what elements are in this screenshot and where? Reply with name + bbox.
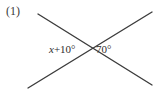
intersecting-lines-diagram xyxy=(0,0,163,102)
angle-label-right: 70° xyxy=(96,43,111,55)
line-ascending xyxy=(28,12,152,88)
geometry-figure: (1) x+10° 70° xyxy=(0,0,163,102)
angle-expression-rest: +10° xyxy=(54,43,76,55)
angle-label-left: x+10° xyxy=(49,43,76,55)
